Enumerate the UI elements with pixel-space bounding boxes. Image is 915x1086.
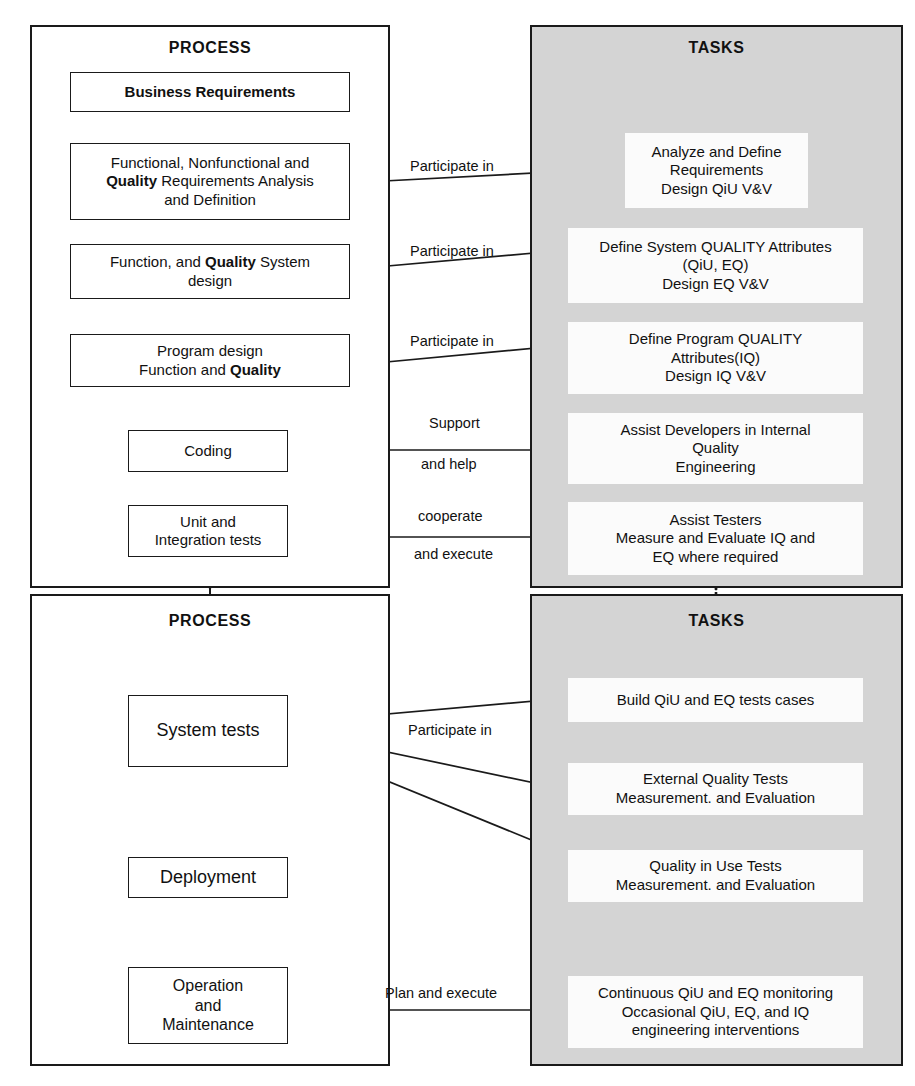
box-line-2: Quality Requirements Analysis [106, 172, 314, 190]
box-line-2: Function and Quality [139, 361, 281, 379]
process-box-unit-integration-tests[interactable]: Unit and Integration tests [128, 505, 288, 557]
box-line-1: External Quality Tests [643, 770, 788, 789]
box-line-1: Program design [157, 342, 263, 360]
process-box-requirements-analysis[interactable]: Functional, Nonfunctional and Quality Re… [70, 143, 350, 220]
process-box-business-requirements[interactable]: Business Requirements [70, 72, 350, 112]
box-line-2: Measurement. and Evaluation [616, 876, 815, 895]
process-box-system-tests[interactable]: System tests [128, 695, 288, 767]
process-box-operation-maintenance[interactable]: Operation and Maintenance [128, 967, 288, 1044]
box-line-3: Design EQ V&V [662, 275, 769, 294]
process-box-system-design[interactable]: Function, and Quality System design [70, 244, 350, 299]
box-line-2: and [195, 996, 222, 1016]
connector-label-participate-in-1: Participate in [410, 158, 494, 174]
box-line-1: Operation [173, 976, 243, 996]
box-line-1: Functional, Nonfunctional and [111, 154, 309, 172]
process-box-deployment[interactable]: Deployment [128, 857, 288, 898]
task-box-build-test-cases[interactable]: Build QiU and EQ tests cases [568, 678, 863, 722]
task-box-assist-testers[interactable]: Assist Testers Measure and Evaluate IQ a… [568, 502, 863, 575]
process-box-program-design[interactable]: Program design Function and Quality [70, 334, 350, 387]
emphasis-quality: Quality [106, 172, 157, 189]
box-label: Build QiU and EQ tests cases [617, 691, 815, 710]
task-box-continuous-monitoring[interactable]: Continuous QiU and EQ monitoring Occasio… [568, 976, 863, 1048]
box-line-2: Quality [692, 439, 739, 458]
emphasis-quality: Quality [230, 361, 281, 378]
box-line-2-rest: Requirements Analysis [157, 172, 314, 189]
box-label: Business Requirements [125, 83, 296, 101]
task-box-quality-in-use-tests[interactable]: Quality in Use Tests Measurement. and Ev… [568, 850, 863, 902]
box-line-1: Assist Developers in Internal [620, 421, 810, 440]
box-line-1: Quality in Use Tests [649, 857, 781, 876]
box-line-3: Maintenance [162, 1015, 254, 1035]
panel-title-tasks-bottom: TASKS [532, 612, 901, 630]
box-line-1: Assist Testers [669, 511, 761, 530]
box-line-1: Continuous QiU and EQ monitoring [598, 984, 833, 1003]
connector-label-cooperate: cooperate [418, 508, 483, 524]
connector-label-participate-in-3: Participate in [410, 333, 494, 349]
box-line-2: design [188, 272, 232, 290]
box-line-1-pre: Function, and [110, 253, 205, 270]
box-line-2: Measure and Evaluate IQ and [616, 529, 815, 548]
box-label: System tests [156, 720, 259, 742]
box-line-2-pre: Function and [139, 361, 230, 378]
panel-title-process-top: PROCESS [32, 39, 388, 57]
box-line-1: Define Program QUALITY [629, 330, 802, 349]
box-line-2: Requirements [670, 161, 763, 180]
box-line-2: Measurement. and Evaluation [616, 789, 815, 808]
connector-label-participate-in-4: Participate in [408, 722, 492, 738]
diagram-canvas: PROCESS Business Requirements Functional… [0, 0, 915, 1086]
task-box-analyze-define-requirements[interactable]: Analyze and Define Requirements Design Q… [625, 133, 808, 208]
box-label: Coding [184, 442, 232, 460]
connector-label-and-help: and help [421, 456, 477, 472]
connector-label-participate-in-2: Participate in [410, 243, 494, 259]
panel-title-tasks-top: TASKS [532, 39, 901, 57]
task-box-assist-developers[interactable]: Assist Developers in Internal Quality En… [568, 413, 863, 484]
box-line-2: Occasional QiU, EQ, and IQ [622, 1003, 810, 1022]
connector-label-plan-and-execute: Plan and execute [385, 985, 497, 1001]
box-line-2: Attributes(IQ) [671, 349, 760, 368]
box-line-1: Unit and [180, 513, 236, 531]
task-box-external-quality-tests[interactable]: External Quality Tests Measurement. and … [568, 763, 863, 815]
box-line-2: Integration tests [155, 531, 262, 549]
box-line-3: Design QiU V&V [661, 180, 772, 199]
box-label: Deployment [160, 867, 256, 889]
process-box-coding[interactable]: Coding [128, 430, 288, 472]
connector-label-and-execute: and execute [414, 546, 493, 562]
task-box-define-system-quality-attributes[interactable]: Define System QUALITY Attributes (QiU, E… [568, 228, 863, 303]
box-line-2: (QiU, EQ) [683, 256, 749, 275]
box-line-3: engineering interventions [632, 1021, 800, 1040]
emphasis-quality: Quality [205, 253, 256, 270]
box-line-3: and Definition [164, 191, 256, 209]
box-line-1-post: System [256, 253, 310, 270]
box-line-3: Engineering [675, 458, 755, 477]
task-box-define-program-quality-attributes[interactable]: Define Program QUALITY Attributes(IQ) De… [568, 322, 863, 394]
box-line-1: Analyze and Define [651, 143, 781, 162]
box-line-3: EQ where required [653, 548, 779, 567]
box-line-1: Define System QUALITY Attributes [599, 238, 831, 257]
panel-title-process-bottom: PROCESS [32, 612, 388, 630]
connector-label-support: Support [429, 415, 480, 431]
box-line-1: Function, and Quality System [110, 253, 310, 271]
box-line-3: Design IQ V&V [665, 367, 766, 386]
